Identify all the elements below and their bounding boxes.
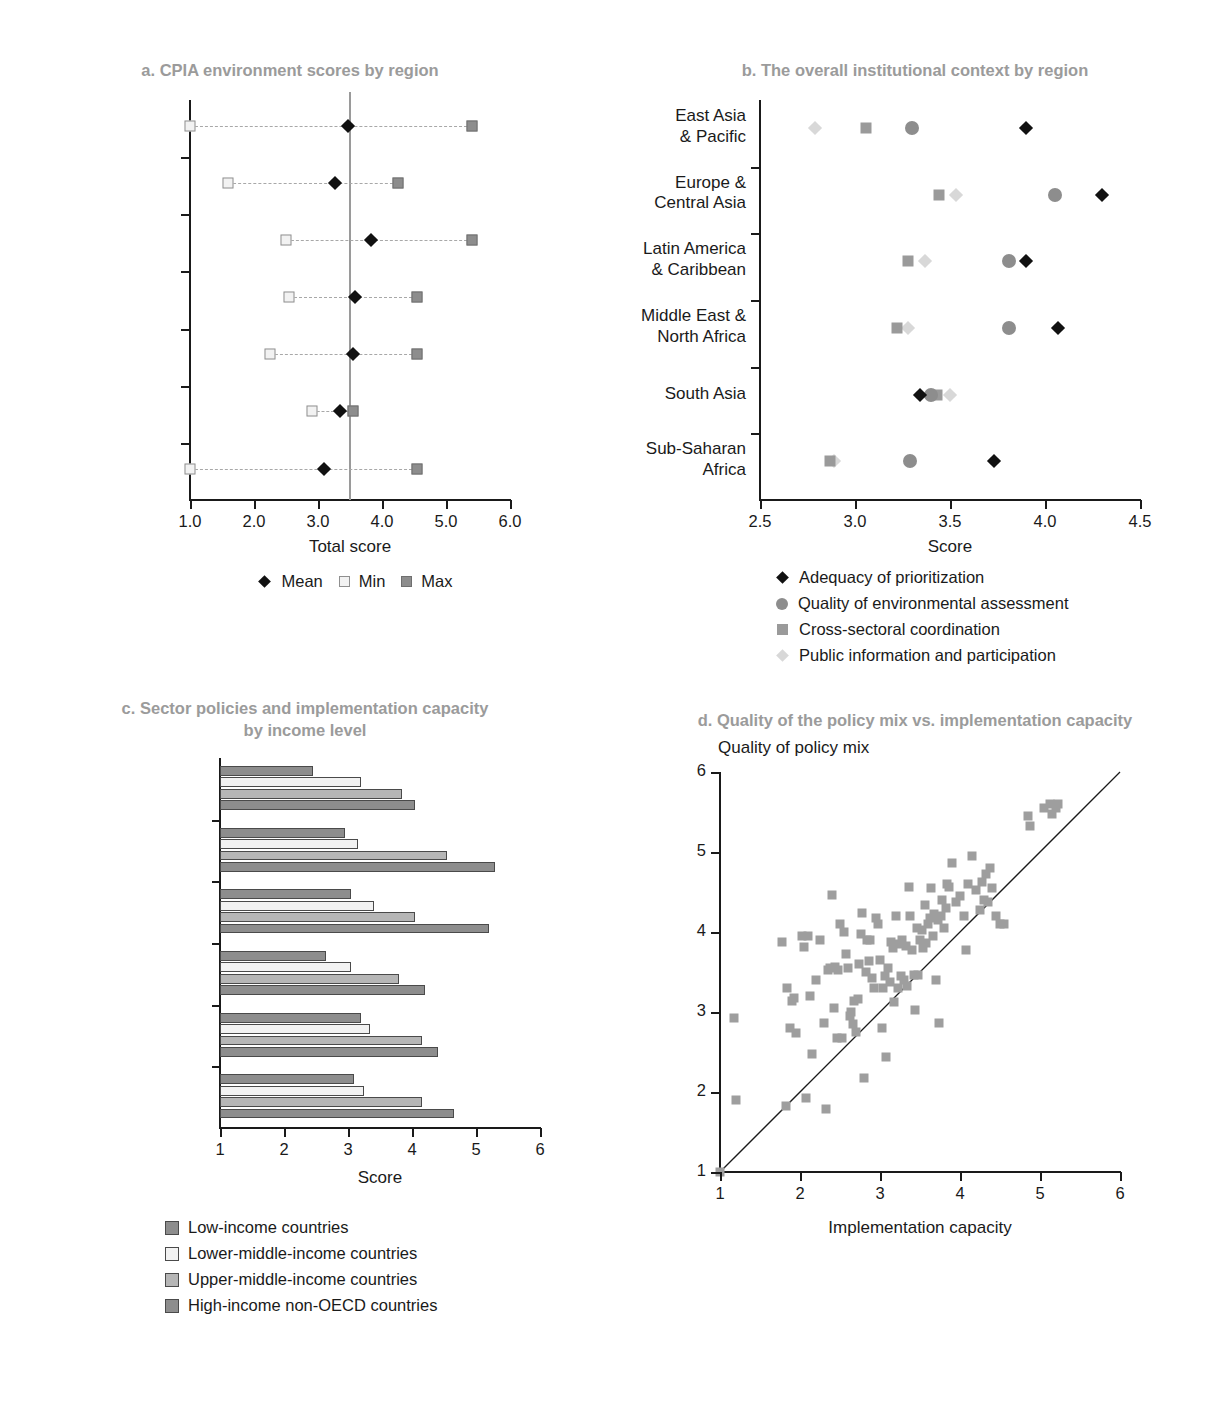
scatter-point bbox=[840, 928, 849, 937]
scatter-point bbox=[893, 984, 902, 993]
legend-item-quality[interactable]: Quality of environmental assessment bbox=[775, 594, 1069, 613]
row-label-5: Sub-SaharanAfrica bbox=[526, 439, 746, 480]
swatch-icon bbox=[165, 1273, 179, 1287]
x-tick-label: 6 bbox=[516, 1140, 564, 1159]
scatter-point bbox=[868, 974, 877, 983]
legend-item-mean[interactable]: Mean bbox=[257, 572, 322, 591]
row-label-4: South Asia bbox=[526, 384, 746, 405]
y-tick bbox=[212, 943, 220, 945]
y-tick bbox=[212, 1066, 220, 1068]
scatter-point bbox=[882, 1052, 891, 1061]
legend-item-lower-middle-income[interactable]: Lower-middle-income countries bbox=[165, 1244, 437, 1263]
legend-label: Public information and participation bbox=[799, 646, 1056, 665]
legend-item-min[interactable]: Min bbox=[339, 572, 386, 591]
scatter-point bbox=[911, 1006, 920, 1015]
x-tick bbox=[720, 1172, 722, 1181]
scatter-point bbox=[984, 897, 993, 906]
filled-square-icon bbox=[401, 576, 412, 587]
panel-b-plot: 2.53.03.54.04.5 bbox=[760, 100, 1140, 500]
x-tick bbox=[1120, 1172, 1122, 1181]
scatter-point bbox=[884, 964, 893, 973]
panel-c-x-axis bbox=[219, 1127, 541, 1129]
scatter-point bbox=[789, 993, 798, 1002]
legend-item-high-income[interactable]: High-income non-OECD countries bbox=[165, 1296, 437, 1315]
panel-d-plot: 123456 123456 bbox=[720, 772, 1120, 1172]
y-tick bbox=[212, 820, 220, 822]
y-tick-label: 1 bbox=[674, 1161, 706, 1180]
min-marker bbox=[265, 349, 276, 360]
y-tick bbox=[711, 1172, 720, 1174]
legend-label: Mean bbox=[281, 572, 322, 591]
bar-waste-2 bbox=[220, 851, 447, 861]
bar-marine-1 bbox=[220, 962, 351, 972]
legend-label: Cross-sectoral coordination bbox=[799, 620, 1000, 639]
min-marker bbox=[185, 463, 196, 474]
x-tick-label: 1.0 bbox=[166, 512, 214, 531]
panel-a-plot: 1.02.03.04.05.06.0 bbox=[190, 100, 510, 500]
scatter-point bbox=[800, 943, 809, 952]
x-tick-label: 5.0 bbox=[422, 512, 470, 531]
max-marker bbox=[412, 349, 423, 360]
public-info-marker bbox=[901, 321, 915, 335]
legend-item-low-income[interactable]: Low-income countries bbox=[165, 1218, 437, 1237]
max-marker bbox=[393, 177, 404, 188]
adequacy-marker bbox=[1051, 321, 1065, 335]
x-tick bbox=[880, 1172, 882, 1181]
adequacy-marker bbox=[987, 454, 1001, 468]
x-tick-label: 3.5 bbox=[926, 512, 974, 531]
coordination-marker bbox=[903, 256, 914, 267]
range-connector bbox=[228, 183, 398, 184]
x-tick-label: 6 bbox=[1100, 1184, 1140, 1203]
y-tick-label: 5 bbox=[674, 841, 706, 860]
bar-nrm-3 bbox=[220, 1109, 454, 1119]
bar-marine-2 bbox=[220, 974, 399, 984]
coordination-marker bbox=[933, 189, 944, 200]
x-tick-label: 2 bbox=[260, 1140, 308, 1159]
legend-item-coordination[interactable]: Cross-sectoral coordination bbox=[775, 620, 1069, 639]
square-icon bbox=[777, 624, 788, 635]
min-marker bbox=[185, 120, 196, 131]
scatter-point bbox=[903, 982, 912, 991]
coordination-marker bbox=[891, 323, 902, 334]
x-tick bbox=[254, 500, 256, 509]
x-tick bbox=[382, 500, 384, 509]
scatter-point bbox=[834, 966, 843, 975]
x-tick bbox=[348, 1128, 350, 1137]
x-tick-label: 1 bbox=[700, 1184, 740, 1203]
x-tick bbox=[760, 500, 762, 509]
legend-item-public-info[interactable]: Public information and participation bbox=[775, 646, 1069, 665]
max-marker bbox=[412, 463, 423, 474]
x-tick-label: 5 bbox=[1020, 1184, 1060, 1203]
legend-item-adequacy[interactable]: Adequacy of prioritization bbox=[775, 568, 1069, 587]
scatter-point bbox=[829, 1004, 838, 1013]
y-tick bbox=[711, 932, 720, 934]
scatter-point bbox=[864, 956, 873, 965]
scatter-point bbox=[1053, 800, 1062, 809]
scatter-point bbox=[804, 932, 813, 941]
panel-c-title-line1: c. Sector policies and implementation ca… bbox=[40, 698, 570, 720]
x-tick bbox=[510, 500, 512, 509]
scatter-point bbox=[890, 998, 899, 1007]
max-marker bbox=[348, 406, 359, 417]
scatter-point bbox=[948, 859, 957, 868]
legend-item-max[interactable]: Max bbox=[401, 572, 452, 591]
scatter-point bbox=[960, 912, 969, 921]
x-tick bbox=[446, 500, 448, 509]
scatter-point bbox=[730, 1013, 739, 1022]
y-tick bbox=[751, 433, 760, 435]
scatter-point bbox=[852, 1028, 861, 1037]
x-tick-label: 2.5 bbox=[736, 512, 784, 531]
panel-a-y-axis bbox=[189, 100, 191, 500]
bar-water-2 bbox=[220, 912, 415, 922]
y-tick bbox=[181, 271, 190, 273]
y-tick bbox=[181, 443, 190, 445]
scatter-point bbox=[802, 1094, 811, 1103]
scatter-point bbox=[936, 912, 945, 921]
scatter-point bbox=[820, 1019, 829, 1028]
open-square-icon bbox=[339, 576, 350, 587]
x-tick-label: 3.0 bbox=[294, 512, 342, 531]
max-marker bbox=[466, 235, 477, 246]
panel-d: d. Quality of the policy mix vs. impleme… bbox=[600, 690, 1227, 1406]
x-tick bbox=[318, 500, 320, 509]
legend-item-upper-middle-income[interactable]: Upper-middle-income countries bbox=[165, 1270, 437, 1289]
